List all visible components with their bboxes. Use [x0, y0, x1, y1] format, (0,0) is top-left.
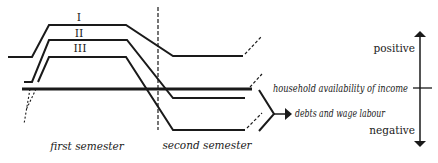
bracket — [259, 90, 274, 131]
series-I-dashed-extension — [245, 36, 262, 54]
axis-arrow-up — [414, 31, 426, 37]
axis-arrow-down — [414, 141, 426, 147]
series-III-dashed-extension — [247, 113, 262, 128]
left-dashed-tail-1 — [24, 89, 30, 124]
series-label-I: I — [77, 11, 81, 24]
baseline-label: household availability of income — [273, 82, 408, 94]
axis-label-positive: positive — [373, 42, 415, 54]
diagram-canvas: I II III household availability of incom… — [0, 0, 438, 163]
outcome-label: debts and wage labour — [295, 107, 386, 119]
series-label-III: III — [73, 42, 86, 55]
axis-label-negative: negative — [369, 124, 415, 136]
period-label-second: second semester — [162, 139, 252, 151]
series-II-dashed-extension — [250, 74, 262, 87]
series-label-II: II — [75, 27, 84, 40]
series-line-III — [38, 57, 245, 130]
left-dashed-tail-2 — [26, 89, 36, 110]
period-label-first: first semester — [49, 140, 125, 152]
diagram-svg: I II III household availability of incom… — [0, 0, 438, 163]
outcome-arrowhead — [285, 108, 292, 120]
